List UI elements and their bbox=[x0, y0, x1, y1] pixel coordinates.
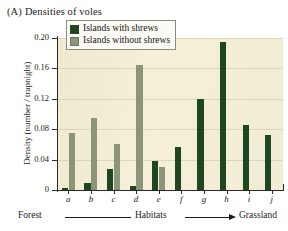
habitat-label-grassland: Grassland bbox=[239, 210, 277, 220]
figure-panel-a: (A)Densities of voles Density (number / … bbox=[0, 0, 288, 231]
panel-title-text: Densities of voles bbox=[25, 6, 102, 17]
habitat-label-forest: Forest bbox=[18, 210, 42, 220]
y-tick-label-3: 0.12 bbox=[34, 94, 49, 103]
bar-d-without-shrews bbox=[136, 65, 142, 190]
y-tick-4 bbox=[52, 68, 57, 69]
gray-green-swatch-icon bbox=[70, 37, 79, 46]
x-label-a: a bbox=[59, 194, 77, 204]
legend: Islands with shrews Islands without shre… bbox=[66, 20, 176, 50]
bar-a-without-shrews bbox=[69, 133, 75, 190]
legend-label-with-shrews: Islands with shrews bbox=[83, 24, 158, 34]
x-label-e: e bbox=[150, 194, 168, 204]
y-tick-2 bbox=[52, 129, 57, 130]
y-axis-title: Density (number / trapnight) bbox=[22, 33, 32, 193]
y-tick-5 bbox=[52, 38, 57, 39]
legend-item-without-shrews: Islands without shrews bbox=[70, 35, 170, 47]
bar-e-without-shrews bbox=[159, 167, 165, 190]
plot-area bbox=[57, 38, 283, 190]
legend-label-without-shrews: Islands without shrews bbox=[83, 36, 170, 46]
gridline-016 bbox=[57, 68, 283, 69]
habitat-line-left bbox=[65, 217, 131, 218]
bar-g-with-shrews bbox=[197, 99, 203, 190]
x-label-i: i bbox=[240, 194, 258, 204]
x-label-j: j bbox=[263, 194, 281, 204]
y-tick-label-1: 0.04 bbox=[34, 155, 49, 164]
x-axis-right-cap bbox=[283, 184, 284, 191]
y-tick-label-4: 0.16 bbox=[34, 63, 49, 72]
legend-item-with-shrews: Islands with shrews bbox=[70, 23, 170, 35]
bar-b-without-shrews bbox=[91, 118, 97, 190]
y-tick-label-5: 0.20 bbox=[34, 33, 49, 42]
x-label-c: c bbox=[105, 194, 123, 204]
bar-f-with-shrews bbox=[175, 147, 181, 190]
x-label-h: h bbox=[218, 194, 236, 204]
dark-green-swatch-icon bbox=[70, 25, 79, 34]
y-axis-line bbox=[57, 36, 58, 192]
bar-i-with-shrews bbox=[243, 125, 249, 190]
habitat-label-habitats: Habitats bbox=[135, 210, 167, 220]
panel-letter: (A) bbox=[7, 6, 22, 17]
bar-b-with-shrews bbox=[84, 183, 90, 190]
gridline-012 bbox=[57, 99, 283, 100]
bar-e-with-shrews bbox=[152, 161, 158, 190]
bar-h-with-shrews bbox=[220, 42, 226, 190]
x-label-f: f bbox=[172, 194, 190, 204]
bar-j-with-shrews bbox=[265, 135, 271, 190]
bar-c-with-shrews bbox=[107, 169, 113, 190]
habitat-arrow-icon bbox=[229, 214, 236, 220]
page-title: (A)Densities of voles bbox=[7, 6, 102, 17]
y-tick-label-2: 0.08 bbox=[34, 124, 49, 133]
y-tick-label-0: 0 bbox=[45, 185, 49, 194]
habitat-gradient-caption: Forest Habitats Grassland bbox=[18, 209, 280, 225]
y-tick-0 bbox=[52, 190, 57, 191]
x-label-g: g bbox=[195, 194, 213, 204]
bar-c-without-shrews bbox=[114, 144, 120, 190]
x-label-d: d bbox=[127, 194, 145, 204]
habitat-line-right bbox=[185, 217, 231, 218]
y-tick-1 bbox=[52, 160, 57, 161]
x-label-b: b bbox=[82, 194, 100, 204]
y-tick-3 bbox=[52, 99, 57, 100]
